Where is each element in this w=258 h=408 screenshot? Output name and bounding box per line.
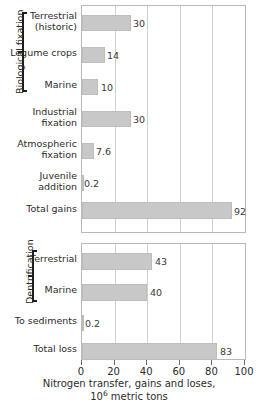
gridline-60 [180, 6, 181, 232]
bar-total-loss [82, 343, 217, 360]
category-label-terrestrial-denitrification: Terrestrial [0, 254, 77, 265]
bar-legume-crops [82, 47, 105, 63]
x-tick-label-20: 20 [97, 366, 131, 377]
category-label-line2: addition [0, 182, 77, 193]
x-tick-label-0: 0 [64, 366, 98, 377]
chart-panel-gains [81, 5, 246, 233]
x-tick-label-80: 80 [194, 366, 228, 377]
category-label-total-gains: Total gains [0, 204, 77, 215]
category-label-atmospheric-fixation: Atmospheric fixation [0, 139, 77, 160]
x-tick-20 [114, 360, 115, 365]
value-label-total-loss: 83 [220, 347, 232, 357]
x-tick-label-100: 100 [227, 366, 258, 377]
x-tick-40 [146, 360, 147, 365]
value-label-terrestrial-historic: 30 [133, 19, 145, 29]
gridline-40 [147, 6, 148, 232]
x-tick-label-60: 60 [162, 366, 196, 377]
x-axis-title-line1: Nitrogen transfer, gains and loses, [0, 378, 258, 390]
category-label-line2: (historic) [0, 22, 77, 33]
x-axis: 0 20 40 60 80 100 [81, 360, 246, 366]
bar-terrestrial-denitrification [82, 253, 152, 270]
value-label-marine-denitrification: 40 [150, 288, 162, 298]
value-label-juvenile-addition: 0.2 [84, 179, 99, 189]
nitrogen-budget-chart: 30 14 10 30 7.6 0.2 92 Terrestrial (hist… [0, 0, 258, 408]
category-label-line1: Juvenile [0, 171, 77, 182]
category-label-total-loss: Total loss [0, 344, 77, 355]
x-tick-0 [81, 360, 82, 365]
bar-marine-fixation [82, 79, 98, 95]
category-label-line1: Terrestrial [0, 11, 77, 22]
category-label-industrial-fixation: Industrial fixation [0, 107, 77, 128]
category-label-terrestrial-historic: Terrestrial (historic) [0, 11, 77, 32]
gridline-80 [212, 6, 213, 232]
x-axis-title-units: metric tons [108, 391, 168, 402]
category-label-legume-crops: Legume crops [0, 48, 77, 59]
x-tick-80 [211, 360, 212, 365]
category-label-line2: fixation [0, 118, 77, 129]
value-label-atmospheric-fixation: 7.6 [96, 147, 111, 157]
bar-industrial-fixation [82, 111, 131, 127]
value-label-legume-crops: 14 [107, 51, 119, 61]
x-tick-label-40: 40 [129, 366, 163, 377]
group-label-biological-fixation: Biological fixation [14, 10, 25, 94]
category-label-marine-denitrification: Marine [0, 285, 77, 296]
bar-total-gains [82, 202, 232, 219]
category-label-line1: Industrial [0, 107, 77, 118]
value-label-to-sediments: 0.2 [85, 319, 100, 329]
x-tick-60 [179, 360, 180, 365]
gridline-60 [180, 244, 181, 359]
category-label-to-sediments: To sediments [0, 316, 77, 327]
bar-to-sediments [82, 315, 84, 331]
bar-marine-denitrification [82, 284, 147, 301]
x-axis-title-base: 10 [90, 391, 103, 402]
category-label-juvenile-addition: Juvenile addition [0, 171, 77, 192]
value-label-marine-fixation: 10 [101, 83, 113, 93]
value-label-total-gains: 92 [234, 207, 246, 217]
gridline-80 [212, 244, 213, 359]
category-label-line2: fixation [0, 150, 77, 161]
bar-terrestrial-historic [82, 15, 131, 31]
x-axis-title-line2: 106 metric tons [0, 391, 258, 403]
value-label-terrestrial-denitrification: 43 [155, 257, 167, 267]
bar-atmospheric-fixation [82, 143, 94, 159]
value-label-industrial-fixation: 30 [133, 115, 145, 125]
category-label-line1: Atmospheric [0, 139, 77, 150]
x-tick-100 [244, 360, 245, 365]
category-label-marine-fixation: Marine [0, 80, 77, 91]
group-label-denitrification: Dentrification [24, 239, 35, 304]
